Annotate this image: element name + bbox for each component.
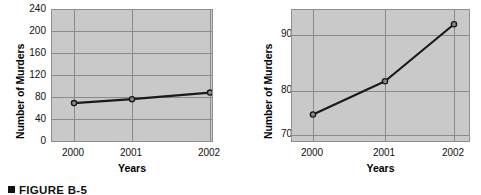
- x-tick-label: 2001: [111, 148, 151, 158]
- plot-area-left: [51, 9, 213, 142]
- x-tick-label: 2001: [364, 148, 404, 158]
- y-tick-label: 90: [268, 29, 292, 39]
- figure-caption: FIGURE B-5: [8, 184, 87, 195]
- square-bullet-icon: [8, 186, 15, 193]
- chart-panel-left: Number of Murders 240 200 160 120 80 40 …: [0, 0, 240, 178]
- chart-panel-right: Number of Murders 90 80 70 2000 2001 200…: [240, 0, 481, 178]
- x-tick-label: 2000: [292, 148, 332, 158]
- y-tick-label: 160: [20, 48, 46, 58]
- figure-container: Number of Murders 240 200 160 120 80 40 …: [0, 0, 481, 195]
- data-point: [207, 90, 212, 95]
- data-line-right: [292, 10, 470, 142]
- x-axis-title-left: Years: [51, 162, 213, 174]
- data-point: [382, 79, 387, 84]
- y-tick-label: 200: [20, 26, 46, 36]
- y-tick-label: 70: [268, 129, 292, 139]
- x-axis-title-right: Years: [291, 162, 470, 174]
- y-tick-label: 80: [20, 92, 46, 102]
- data-line-left: [52, 10, 213, 142]
- data-point: [129, 97, 134, 102]
- y-tick-label: 120: [20, 70, 46, 80]
- data-point: [451, 22, 456, 27]
- data-point: [310, 112, 315, 117]
- y-tick-label: 240: [20, 4, 46, 14]
- y-tick-label: 40: [20, 114, 46, 124]
- data-point: [71, 101, 76, 106]
- y-tick-label: 80: [268, 85, 292, 95]
- x-tick-label: 2000: [53, 148, 93, 158]
- plot-area-right: [291, 9, 470, 142]
- x-tick-label: 2002: [189, 148, 229, 158]
- figure-caption-text: FIGURE B-5: [19, 184, 87, 195]
- y-tick-label: 0: [20, 136, 46, 146]
- x-tick-label: 2002: [433, 148, 473, 158]
